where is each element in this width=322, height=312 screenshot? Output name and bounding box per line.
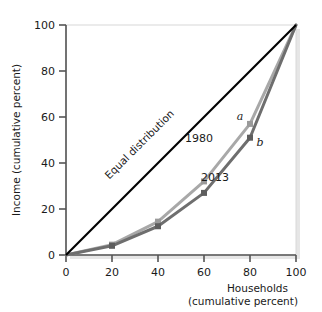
x-tick-label-80: 80 bbox=[243, 266, 257, 279]
series-2013-marker-80-b bbox=[247, 135, 253, 141]
x-tick-label-100: 100 bbox=[286, 266, 307, 279]
y-tick-label-80: 80 bbox=[41, 65, 55, 78]
y-tick-labels: 100 80 60 40 20 0 bbox=[34, 19, 55, 262]
series-2013-marker-60 bbox=[201, 190, 207, 196]
y-axis bbox=[59, 25, 66, 255]
y-tick-label-40: 40 bbox=[41, 157, 55, 170]
x-tick-label-0: 0 bbox=[63, 266, 70, 279]
y-tick-label-0: 0 bbox=[48, 249, 55, 262]
chart-canvas: 100 80 60 40 20 0 0 20 40 60 80 100 Inco… bbox=[0, 0, 322, 312]
x-axis-title: Households bbox=[227, 282, 288, 294]
y-tick-label-20: 20 bbox=[41, 203, 55, 216]
x-tick-label-20: 20 bbox=[105, 266, 119, 279]
lorenz-curve-chart: 100 80 60 40 20 0 0 20 40 60 80 100 Inco… bbox=[0, 0, 322, 312]
x-tick-label-40: 40 bbox=[151, 266, 165, 279]
x-axis-subtitle: (cumulative percent) bbox=[188, 295, 298, 307]
point-label-a: a bbox=[237, 110, 244, 123]
x-tick-labels: 0 20 40 60 80 100 bbox=[63, 266, 307, 279]
y-tick-label-60: 60 bbox=[41, 111, 55, 124]
x-tick-label-60: 60 bbox=[197, 266, 211, 279]
series-1980-marker-80-a bbox=[247, 121, 253, 127]
series-label-2013: 2013 bbox=[201, 171, 229, 184]
y-tick-label-100: 100 bbox=[34, 19, 55, 32]
series-2013-marker-40 bbox=[155, 223, 161, 229]
y-axis-title: Income (cumulative percent) bbox=[10, 64, 22, 216]
series-2013-marker-20 bbox=[109, 243, 115, 249]
series-label-1980: 1980 bbox=[185, 132, 213, 145]
point-label-b: b bbox=[256, 136, 263, 149]
